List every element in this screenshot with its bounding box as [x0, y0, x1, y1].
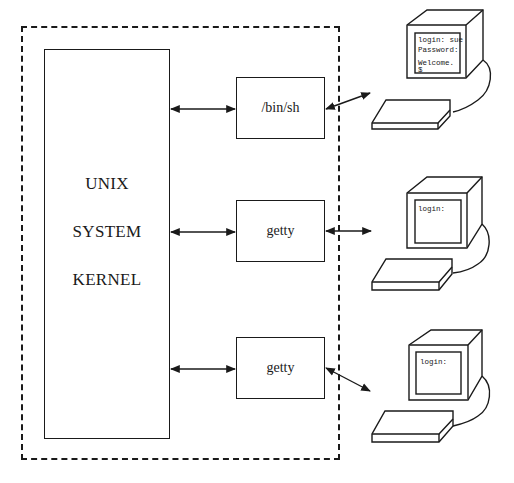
screen-line: login: sue	[418, 36, 463, 44]
terminal-3: login:	[372, 330, 490, 442]
screen-line: Welcome.	[418, 59, 454, 67]
terminal-1: login: sue Password: Welcome. $	[372, 10, 490, 129]
keyboard-icon	[372, 411, 453, 442]
getty-2-to-terminal-arrow	[326, 368, 370, 391]
screen-line: Password:	[418, 46, 459, 54]
connectors-and-terminals: login: sue Password: Welcome. $ login:	[0, 0, 514, 483]
screen-line: login:	[420, 358, 447, 366]
screen-line: login:	[418, 205, 445, 213]
keyboard-icon	[372, 100, 450, 129]
terminal-2: login:	[372, 177, 489, 290]
screen-line: $	[418, 66, 423, 74]
shell-to-terminal-arrow	[326, 93, 370, 109]
keyboard-icon	[372, 259, 452, 290]
